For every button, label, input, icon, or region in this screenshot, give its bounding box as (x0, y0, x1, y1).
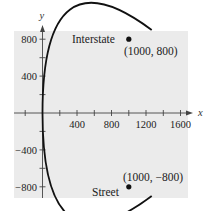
street-label: Street (92, 186, 120, 198)
point-marker-top (126, 37, 131, 42)
x-tick-label-800: 800 (104, 119, 120, 130)
x-tick-label-1600: 1600 (170, 119, 191, 130)
point-top-label: (1000, 800) (124, 45, 178, 58)
x-axis-label: x (197, 107, 203, 118)
parabola-chart: 400 800 1200 1600 x 800 400 −400 −800 y … (0, 0, 212, 211)
y-axis-label: y (39, 10, 45, 21)
x-tick-label-400: 400 (69, 119, 85, 130)
y-tick-label-neg800: −800 (15, 182, 37, 193)
x-axis-arrow-icon (186, 111, 193, 116)
y-axis-arrow-icon (40, 25, 45, 32)
y-tick-label-400: 400 (21, 71, 37, 82)
y-tick-label-neg400: −400 (15, 145, 37, 156)
point-bottom-label: (1000, −800) (123, 171, 183, 184)
point-marker-bottom (126, 184, 131, 189)
interstate-label: Interstate (72, 33, 115, 45)
x-tick-label-1200: 1200 (136, 119, 157, 130)
y-tick-label-800: 800 (21, 34, 37, 45)
